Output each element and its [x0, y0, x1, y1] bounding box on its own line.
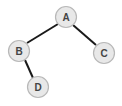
node-c: C [94, 43, 115, 64]
edge-a-c [73, 25, 96, 45]
tree-diagram: A B C D [0, 0, 122, 106]
node-b: B [9, 41, 30, 62]
node-d: D [28, 77, 49, 98]
node-d-label: D [34, 82, 41, 93]
node-c-label: C [100, 48, 107, 59]
node-a: A [56, 7, 77, 28]
node-a-label: A [62, 12, 69, 23]
edge-b-d [25, 60, 33, 78]
edge-a-b [27, 24, 58, 43]
node-b-label: B [15, 46, 22, 57]
